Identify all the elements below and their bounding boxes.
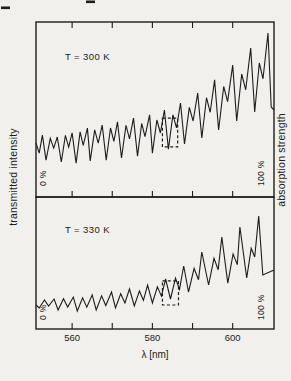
y-axis-label-right: absorption strength: [275, 113, 287, 207]
chart-layer: 560580600: [36, 22, 274, 343]
panel-bottom-hundred-percent-label: 100 %: [256, 294, 266, 320]
panel-top-hundred-percent-label: 100 %: [256, 160, 266, 186]
x-tick-label: 580: [144, 332, 160, 343]
scan-artifact: [86, 1, 95, 4]
x-axis-label: λ [nm]: [141, 349, 168, 360]
scan-artifact: [1, 7, 10, 10]
panel-bottom-border: [36, 197, 274, 329]
panel-bottom-zero-percent-label: 0 %: [38, 304, 48, 320]
panel-top-temperature-label: T = 300 K: [65, 51, 110, 62]
panel-top-zero-percent-label: 0 %: [38, 170, 48, 186]
spectra-plot: 560580600 transmitted intensity absorpti…: [0, 0, 291, 381]
x-tick-label: 560: [64, 332, 80, 343]
panel-bottom-temperature-label: T = 330 K: [65, 224, 110, 235]
spectra-figure: 560580600 transmitted intensity absorpti…: [0, 0, 291, 381]
x-tick-label: 600: [225, 332, 241, 343]
highlight-box-bottom: [162, 281, 178, 305]
y-axis-label-left: transmitted intensity: [7, 128, 19, 226]
